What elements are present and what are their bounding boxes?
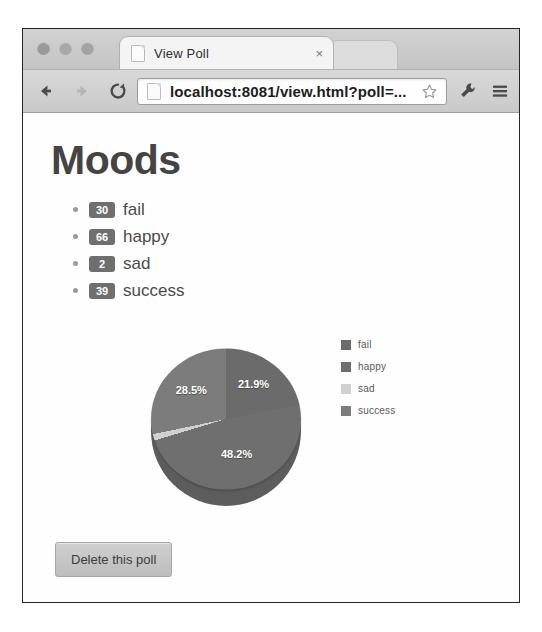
forward-arrow-icon [69, 78, 95, 104]
vote-count-badge: 2 [89, 256, 115, 272]
page-content: Moods 30 fail 66 happy 2 [23, 113, 519, 603]
legend-swatch [341, 406, 351, 416]
screenshot-root: View Poll × [0, 0, 542, 632]
address-bar[interactable]: localhost:8081/view.html?poll=... [137, 78, 447, 105]
page-icon [131, 45, 145, 62]
browser-toolbar: localhost:8081/view.html?poll=... [23, 70, 519, 113]
maximize-window-dot[interactable] [81, 42, 94, 55]
list-item: 39 success [89, 279, 519, 302]
legend-swatch [341, 384, 351, 394]
actions: Delete this poll [55, 542, 172, 577]
legend-swatch [341, 340, 351, 350]
list-item: 2 sad [89, 252, 519, 275]
vote-count-badge: 39 [89, 283, 115, 299]
hamburger-menu-icon[interactable] [487, 78, 513, 104]
option-label: success [123, 280, 184, 302]
option-label: happy [123, 226, 169, 248]
page-title: Moods [23, 113, 519, 182]
poll-chart: 21.9% 48.2% 28.5% fail happy sa [23, 336, 519, 526]
poll-results-list: 30 fail 66 happy 2 sad [23, 198, 519, 302]
chart-legend: fail happy sad success [341, 336, 396, 424]
tab-view-poll[interactable]: View Poll × [119, 36, 334, 69]
legend-swatch [341, 362, 351, 372]
wrench-icon[interactable] [455, 78, 481, 104]
background-tab[interactable] [328, 40, 398, 69]
legend-item: happy [341, 358, 396, 375]
pie-chart: 21.9% 48.2% 28.5% [151, 344, 301, 494]
tab-strip: View Poll × [23, 29, 519, 70]
back-arrow-icon[interactable] [33, 78, 59, 104]
close-icon[interactable]: × [315, 47, 323, 60]
close-window-dot[interactable] [37, 42, 50, 55]
legend-item: success [341, 402, 396, 419]
minimize-window-dot[interactable] [59, 42, 72, 55]
legend-label: happy [358, 361, 386, 372]
window-controls[interactable] [37, 42, 94, 55]
browser-window: View Poll × [22, 28, 520, 603]
legend-label: fail [358, 339, 372, 350]
tab-title: View Poll [154, 46, 209, 61]
slice-percent-label: 28.5% [176, 384, 207, 396]
legend-item: fail [341, 336, 396, 353]
delete-poll-button[interactable]: Delete this poll [55, 542, 172, 577]
page-icon [147, 83, 161, 100]
slice-percent-label: 21.9% [238, 378, 269, 390]
url-text: localhost:8081/view.html?poll=... [170, 83, 421, 100]
vote-count-badge: 30 [89, 202, 115, 218]
pie-disc [151, 349, 301, 490]
legend-label: success [358, 405, 396, 416]
list-item: 66 happy [89, 225, 519, 248]
legend-item: sad [341, 380, 396, 397]
option-label: sad [123, 253, 150, 275]
bookmark-star-icon[interactable] [421, 83, 438, 100]
list-item: 30 fail [89, 198, 519, 221]
legend-label: sad [358, 383, 375, 394]
slice-percent-label: 48.2% [221, 448, 252, 460]
vote-count-badge: 66 [89, 229, 115, 245]
reload-icon[interactable] [105, 78, 131, 104]
option-label: fail [123, 199, 145, 221]
